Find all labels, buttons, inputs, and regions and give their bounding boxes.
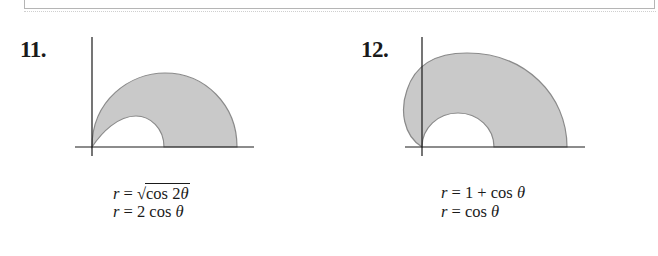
polar-figure-12 xyxy=(0,0,658,256)
shaded-region-12 xyxy=(404,53,567,147)
equation-12-2: r = cos θ xyxy=(441,202,499,221)
equation-12-1: r = 1 + cos θ xyxy=(441,183,525,202)
